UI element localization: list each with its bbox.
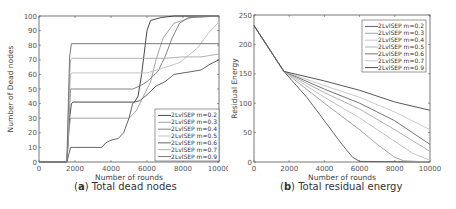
x-tick-label: 0	[252, 165, 256, 173]
x-axis-title: Number of rounds	[308, 173, 376, 180]
caption-a-text: Total dead nodes	[89, 181, 177, 192]
y-tick-label: 150	[239, 70, 252, 78]
y-tick-label: 100	[239, 100, 252, 108]
x-tick-label: 4000	[315, 165, 333, 173]
y-tick-label: 50	[243, 129, 252, 137]
y-axis-title: Residual Energy	[230, 58, 239, 119]
y-tick-label: 0	[248, 159, 252, 167]
caption-a: (a) Total dead nodes	[74, 181, 177, 192]
legend-label: 2LvlSEP m=0.9	[378, 64, 424, 71]
caption-b-letter: b	[284, 181, 291, 192]
x-tick-label: 10000	[419, 165, 441, 173]
y-tick-label: 200	[239, 41, 252, 49]
x-tick-label: 2000	[280, 165, 298, 173]
chart-total-residual-energy: 0200040006000800010000050100150200250Num…	[0, 0, 456, 180]
x-tick-label: 6000	[351, 165, 369, 173]
figure: 0200040006000800010000010203040506070809…	[0, 0, 456, 209]
x-tick-label: 8000	[386, 165, 404, 173]
caption-b: (b) Total residual energy	[280, 181, 402, 192]
caption-a-letter: a	[78, 181, 85, 192]
y-tick-label: 250	[239, 12, 252, 20]
caption-b-text: Total residual energy	[295, 181, 402, 192]
